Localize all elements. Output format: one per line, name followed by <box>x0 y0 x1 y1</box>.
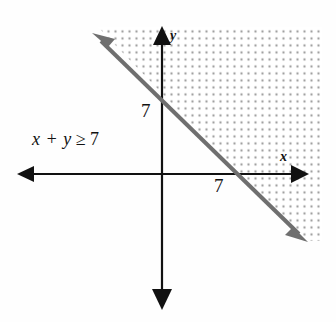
inequality-lhs: x + y <box>32 129 72 149</box>
inequality-rhs: 7 <box>90 129 100 149</box>
y-axis-label: y <box>170 29 176 43</box>
x-intercept-tick-label: 7 <box>214 176 224 195</box>
y-intercept-tick-label: 7 <box>141 101 151 120</box>
shaded-region <box>98 27 322 241</box>
y-axis-bottom-arrowhead <box>152 289 172 310</box>
x-axis-label: x <box>280 150 287 164</box>
x-axis-left-arrowhead <box>17 166 34 182</box>
inequality-annotation: x + y≥7 <box>32 130 100 148</box>
inequality-graph-figure: y x 7 7 x + y≥7 <box>0 0 336 322</box>
inequality-operator: ≥ <box>76 129 86 149</box>
